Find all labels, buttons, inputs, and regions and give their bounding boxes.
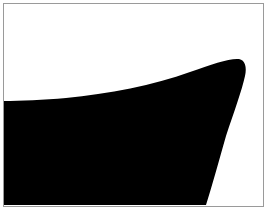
image-canvas [0, 0, 268, 213]
silhouette-figure [4, 4, 263, 206]
image-frame-border [3, 3, 264, 207]
